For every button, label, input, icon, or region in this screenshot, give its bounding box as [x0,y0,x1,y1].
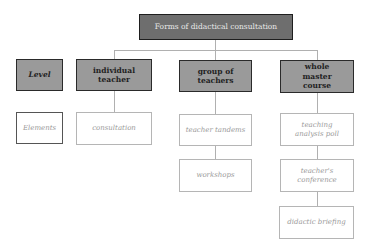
leaf-label: teacher's conference [291,167,343,185]
header-label: group of teachers [180,67,251,86]
leaf-workshops: workshops [179,159,252,192]
header-group-of-teachers: group of teachers [179,60,252,92]
elements-header: Elements [16,112,63,144]
connector-individual-down [114,91,115,112]
connector-whole-2 [317,146,318,159]
leaf-label: didactic briefing [287,218,345,227]
leaf-teaching-analysis-poll: teaching analysis poll [280,113,354,146]
leaf-label: workshops [196,171,234,180]
connector-root-down [215,40,216,50]
header-individual-teacher: individual teacher [76,59,152,91]
connector-group-up [215,50,216,60]
leaf-label: consultation [92,124,136,133]
level-header: Level [16,59,63,91]
elements-label: Elements [23,124,56,133]
leaf-label: teaching analysis poll [287,121,347,139]
header-label: individual teacher [77,66,151,85]
connector-whole-down [317,93,318,113]
leaf-teacher-tandems: teacher tandems [179,114,252,146]
root-label: Forms of didactical consultation [155,22,277,31]
connector-individual-up [114,50,115,59]
leaf-didactic-briefing: didactic briefing [279,206,354,239]
root-node: Forms of didactical consultation [139,14,293,40]
connector-whole-3 [317,192,318,206]
header-label: whole master course [291,62,343,90]
level-label: Level [28,70,50,79]
leaf-teachers-conference: teacher's conference [280,159,354,192]
connector-whole-up [317,50,318,60]
header-whole-master-course: whole master course [280,60,354,93]
leaf-label: teacher tandems [186,126,246,135]
leaf-consultation: consultation [76,112,152,145]
connector-horizontal [114,50,318,51]
connector-group-down [215,92,216,114]
connector-group-2 [215,146,216,159]
